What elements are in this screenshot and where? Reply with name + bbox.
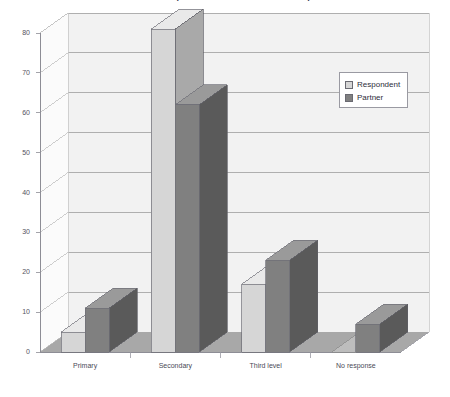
x-axis-category-label: Secondary — [135, 362, 215, 369]
bar-secondary-respondent-front — [151, 29, 175, 352]
legend-item-partner: Partner — [345, 93, 400, 102]
y-axis-label: 30 — [8, 228, 30, 235]
legend-label-respondent: Respondent — [357, 80, 400, 89]
x-axis-category-label: Third level — [226, 362, 306, 369]
y-axis-label: 50 — [8, 149, 30, 156]
chart-canvas — [0, 0, 450, 397]
y-axis-label: 60 — [8, 109, 30, 116]
bar-chart-3d: 01020304050607080PrimarySecondaryThird l… — [0, 0, 450, 397]
chart-legend: Respondent Partner — [339, 72, 408, 108]
legend-item-respondent: Respondent — [345, 80, 400, 89]
y-axis-label: 20 — [8, 268, 30, 275]
x-axis-category-label: Primary — [45, 362, 125, 369]
bar-third-level-partner-side — [290, 240, 318, 352]
bar-third-level-respondent-front — [242, 284, 266, 352]
x-axis-category-label: No response — [316, 362, 396, 369]
y-axis-label: 40 — [8, 189, 30, 196]
bar-primary-respondent-front — [61, 332, 85, 352]
bar-third-level-partner-front — [266, 260, 290, 352]
y-axis-label: 10 — [8, 308, 30, 315]
legend-label-partner: Partner — [357, 93, 383, 102]
bar-secondary-partner-side — [199, 85, 227, 352]
y-axis-label: 80 — [8, 29, 30, 36]
legend-swatch-respondent — [345, 81, 353, 89]
bar-primary-partner-front — [85, 308, 109, 352]
bar-secondary-partner-front — [175, 105, 199, 352]
legend-swatch-partner — [345, 94, 353, 102]
y-axis-label: 0 — [8, 348, 30, 355]
bar-no-response-partner-front — [356, 324, 380, 352]
y-axis-label: 70 — [8, 69, 30, 76]
